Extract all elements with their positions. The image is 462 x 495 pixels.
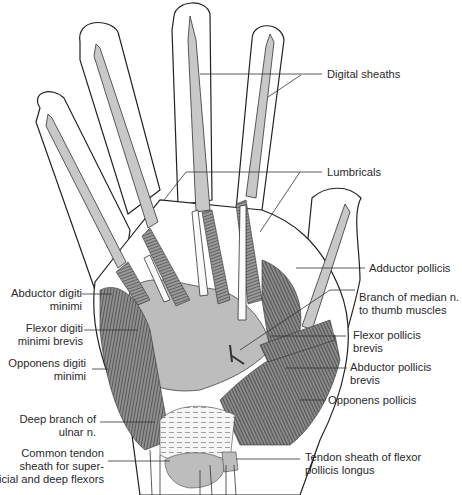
label-branch-median-nerve: Branch of median n. to thumb muscles bbox=[359, 291, 459, 317]
label-tendon-sheath-fpl: Tendon sheath of flexor pollicis longus bbox=[305, 451, 421, 477]
label-digital-sheaths: Digital sheaths bbox=[327, 68, 400, 81]
label-lumbricals: Lumbricals bbox=[327, 166, 381, 179]
label-adductor-pollicis: Adductor pollicis bbox=[369, 262, 450, 275]
label-opponens-pollicis: Opponens pollicis bbox=[328, 394, 416, 407]
label-common-tendon-sheath: Common tendon sheath for super- ficial a… bbox=[0, 447, 104, 486]
label-abductor-pollicis-brevis: Abductor pollicis brevis bbox=[350, 361, 431, 387]
label-flexor-digiti-minimi-brevis: Flexor digiti minimi brevis bbox=[18, 322, 83, 348]
label-flexor-pollicis-brevis: Flexor pollicis brevis bbox=[353, 329, 421, 355]
label-opponens-digiti-minimi: Opponens digiti minimi bbox=[8, 357, 86, 383]
label-deep-branch-ulnar-nerve: Deep branch of ulnar n. bbox=[20, 413, 97, 439]
fpl-tendon-sheath bbox=[222, 452, 238, 472]
label-abductor-digiti-minimi: Abductor digiti minimi bbox=[11, 287, 82, 313]
